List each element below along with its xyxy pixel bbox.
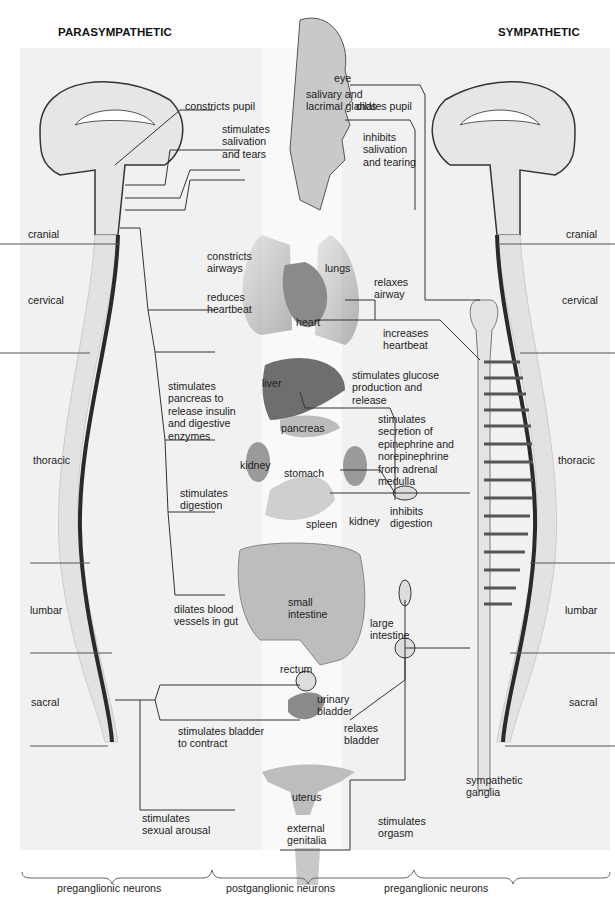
organ-uterus: uterus (292, 791, 321, 803)
organ-pancreas: pancreas (281, 422, 325, 434)
symp-heartbeat: increases heartbeat (383, 327, 428, 352)
organ-urinary-bladder: urinary bladder (317, 693, 352, 718)
para-pancreas: stimulates pancreas to release insulin a… (168, 380, 236, 442)
organ-external-genitalia: external genitalia (287, 822, 326, 847)
right-brain-icon (432, 82, 575, 235)
region-right-thoracic: thoracic (558, 454, 595, 466)
region-right-cervical: cervical (562, 294, 598, 306)
organ-kidney-right: kidney (349, 515, 380, 527)
parasympathetic-heading: PARASYMPATHETIC (58, 26, 172, 38)
region-left-cranial: cranial (28, 228, 59, 240)
left-brain-icon (40, 82, 183, 235)
region-right-cranial: cranial (566, 228, 597, 240)
symp-salivation: inhibits salivation and tearing (363, 131, 416, 168)
region-left-lumbar: lumbar (30, 604, 62, 616)
symp-adrenal: stimulates secretion of epinephrine and … (378, 413, 454, 487)
organ-rectum: rectum (280, 663, 312, 675)
footer-left-preganglionic: preganglionic neurons (57, 882, 161, 894)
para-arousal: stimulates sexual arousal (142, 812, 210, 837)
region-left-sacral: sacral (31, 696, 59, 708)
para-pupil: constricts pupil (185, 100, 255, 112)
sympathetic-ganglia-chain-icon (470, 300, 498, 790)
symp-pupil: dilates pupil (356, 100, 412, 112)
organ-heart: heart (296, 316, 320, 328)
region-left-cervical: cervical (28, 294, 64, 306)
organ-small-intestine: small intestine (288, 596, 327, 621)
head-profile-icon (290, 18, 352, 210)
organ-large-intestine: large intestine (370, 617, 409, 642)
symp-orgasm: stimulates orgasm (378, 815, 426, 840)
para-heartbeat: reduces heartbeat (207, 291, 252, 316)
para-salivation: stimulates salivation and tears (222, 123, 270, 160)
organ-lungs: lungs (325, 262, 350, 274)
para-airways: constricts airways (207, 250, 252, 275)
para-bladder: stimulates bladder to contract (178, 725, 264, 750)
region-left-thoracic: thoracic (33, 454, 70, 466)
organ-sympathetic-ganglia: sympathetic ganglia (466, 774, 523, 799)
para-gut: dilates blood vessels in gut (174, 603, 238, 628)
organ-spleen: spleen (306, 518, 337, 530)
para-digestion: stimulates digestion (180, 487, 228, 512)
symp-digestion: inhibits digestion (390, 505, 432, 530)
symp-glucose: stimulates glucose production and releas… (352, 369, 439, 406)
footer-right-preganglionic: preganglionic neurons (384, 882, 488, 894)
symp-bladder: relaxes bladder (344, 722, 379, 747)
region-right-sacral: sacral (569, 696, 597, 708)
organ-kidney-left: kidney (240, 459, 271, 471)
region-right-lumbar: lumbar (565, 604, 597, 616)
organ-stomach: stomach (284, 467, 324, 479)
symp-airway: relaxes airway (374, 276, 408, 301)
footer-postganglionic: postganglionic neurons (226, 882, 335, 894)
sympathetic-heading: SYMPATHETIC (498, 26, 580, 38)
kidney-right-icon (343, 446, 367, 486)
organ-eye: eye (334, 72, 351, 84)
organ-liver: liver (262, 377, 281, 389)
external-genitalia-icon (295, 848, 320, 885)
